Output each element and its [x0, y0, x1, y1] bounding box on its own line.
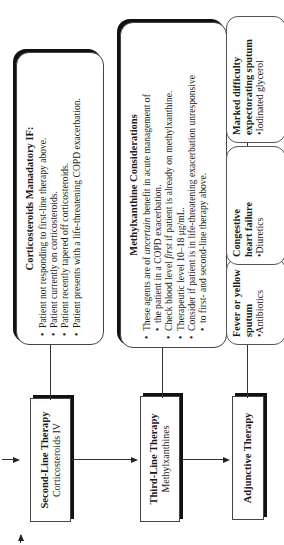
third-line-title: Third-Line Therapy [148, 413, 160, 504]
corticosteroids-mandatory-title: Corticosteroids Manadatory IF: [23, 61, 36, 336]
methylxanthine-considerations-list: These agents are of uncertain benefit in… [141, 31, 208, 339]
corticosteroids-mandatory-box: Corticosteroids Manadatory IF: Patient n… [16, 52, 104, 345]
connector-adjunctive-to-options [247, 345, 248, 398]
criteria-item: Patient currently on corticosteroids. [48, 61, 59, 336]
adjunctive-title: Adjunctive Therapy [242, 413, 254, 504]
consideration-item: Consider if patient is in life-threateni… [186, 31, 197, 339]
flow-arrowhead-third [131, 457, 138, 463]
methylxanthine-considerations-box: Methylxanthine Considerations These agen… [120, 22, 227, 348]
flow-arrowhead-second [13, 457, 20, 463]
second-line-therapy-box: Second-Line Therapy Corticosteroids IV [30, 398, 71, 522]
methylxanthine-title: Methylxanthine Considerations [127, 31, 140, 339]
flow-arrowhead-adjunctive [223, 457, 230, 463]
second-line-title: Second-Line Therapy [39, 412, 51, 509]
corticosteroids-criteria-list: Patient not responding to first-line the… [37, 61, 82, 336]
consideration-item-continued: to first- and second-line therapy above. [197, 31, 208, 339]
adjunctive-therapy-box: Adjunctive Therapy [232, 396, 264, 520]
consideration-item: Therapeutic level 10–18 μg/mL. [175, 31, 186, 339]
incoming-arrowhead [18, 534, 24, 541]
second-line-subtitle: Corticosteroids IV [51, 423, 63, 497]
flow-line-second-to-third [72, 459, 135, 460]
consideration-item: These agents are of uncertain benefit in… [141, 31, 152, 339]
adjunctive-option-heart-failure: Congestive heart failure Diuretics [226, 146, 284, 265]
third-line-subtitle: Methylxanthines [160, 425, 172, 492]
flow-line-third-to-adjunctive [179, 459, 225, 460]
consideration-item: Check blood level first if patient is al… [163, 31, 174, 339]
connector-third-to-methylxanthine [162, 348, 163, 398]
third-line-therapy-box: Third-Line Therapy Methylxanthines [140, 396, 180, 522]
flow-line-incoming [2, 459, 14, 460]
criteria-item: Patient not responding to first-line the… [37, 61, 48, 336]
adjunctive-option-fever: Fever or yellow sputum Antibiotics [226, 258, 284, 345]
criteria-item: Patient presents with a life-threatening… [71, 61, 82, 336]
flowchart-canvas: Second-Line Therapy Corticosteroids IV C… [0, 0, 284, 545]
adjunctive-option-sputum: Marked difficulty expectorating sputum I… [226, 16, 284, 143]
criteria-item: Patient recently tapered off corticoster… [59, 61, 70, 336]
consideration-item-continued: the patient in a COPD exacerbation. [152, 31, 163, 339]
connector-second-to-cortico [50, 345, 51, 400]
